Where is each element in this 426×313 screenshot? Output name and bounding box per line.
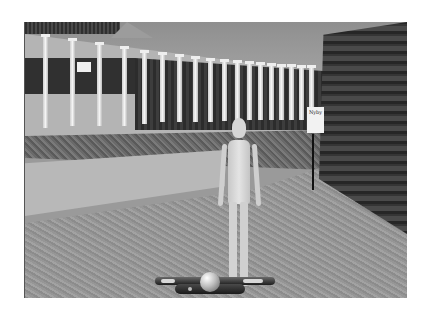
column: [70, 40, 75, 126]
column: [269, 65, 274, 120]
nav-indicator-icon: [188, 287, 192, 291]
avatar-torso: [228, 140, 250, 204]
column: [177, 56, 182, 122]
look-trackball[interactable]: [200, 272, 220, 292]
roof-gable: [111, 22, 153, 38]
navigation-controller[interactable]: [155, 272, 275, 298]
column: [289, 66, 294, 120]
3d-viewport[interactable]: Nyby: [24, 22, 407, 298]
avatar-head: [232, 118, 246, 138]
column: [43, 36, 48, 128]
column: [142, 52, 147, 124]
column: [208, 60, 213, 122]
avatar-arm-left: [218, 144, 227, 206]
sign-board[interactable]: Nyby: [307, 107, 324, 133]
column: [122, 48, 127, 126]
column: [222, 61, 227, 121]
column: [193, 58, 198, 122]
column: [247, 63, 252, 120]
distant-sign: [77, 62, 91, 72]
avatar[interactable]: [215, 118, 265, 290]
column: [235, 62, 240, 120]
move-right-button[interactable]: [243, 279, 263, 283]
sign-post: [312, 134, 314, 190]
column: [97, 44, 102, 126]
column: [299, 67, 304, 120]
move-left-button[interactable]: [161, 279, 175, 283]
column: [160, 54, 165, 122]
column: [279, 66, 284, 120]
column: [258, 64, 263, 120]
tiled-roof: [25, 22, 120, 34]
avatar-arm-right: [252, 144, 261, 206]
